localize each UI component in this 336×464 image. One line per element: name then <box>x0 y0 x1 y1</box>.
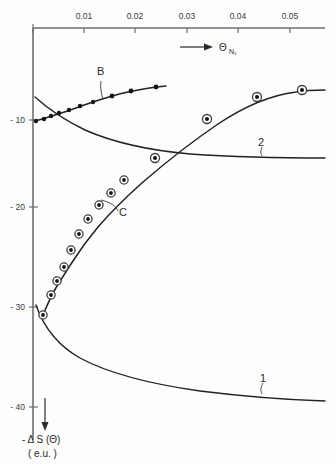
data-point <box>49 114 53 118</box>
data-point <box>84 215 92 223</box>
data-point <box>91 100 95 104</box>
y-axis-title-group: - Δ S (Θ) ( e.u. ) <box>22 398 60 459</box>
x-tick-label: 0.01 <box>76 11 93 21</box>
curve-b-path <box>35 86 166 121</box>
y-tick-label: - 40 <box>10 402 25 412</box>
data-point <box>95 201 103 209</box>
data-point <box>298 86 307 95</box>
data-point <box>78 104 82 108</box>
x-tick-label: 0.03 <box>179 11 196 21</box>
data-point <box>107 189 115 197</box>
data-point <box>67 246 75 254</box>
plot-canvas: 0.01 0.02 0.03 0.04 0.05 - 10 - 20 - 30 … <box>0 0 336 464</box>
x-tick-label: 0.05 <box>282 11 299 21</box>
curve-b-label: B <box>97 65 104 77</box>
y-tick-label: - 10 <box>10 115 25 125</box>
y-axis-title-line1: - Δ S (Θ) <box>22 434 60 445</box>
data-point <box>110 94 115 99</box>
data-point <box>120 176 128 184</box>
data-point <box>203 115 212 124</box>
curve-2-label: 2 <box>258 136 264 148</box>
curve-2-label-group: 2 <box>258 136 264 156</box>
curve-1-label: 1 <box>260 372 266 384</box>
data-point <box>53 277 61 285</box>
x-axis-title-subscript: N₂ <box>229 48 237 55</box>
data-point <box>253 93 262 102</box>
x-axis-title: Θ <box>219 42 227 53</box>
curve-b-leader <box>101 81 103 99</box>
data-point <box>47 291 55 299</box>
x-tick-label: 0.04 <box>230 11 247 21</box>
curve-c-label: C <box>119 206 127 218</box>
curve-c-path <box>43 90 325 315</box>
curve-1-label-group: 1 <box>260 372 266 394</box>
data-point <box>67 108 71 112</box>
data-point <box>75 230 83 238</box>
data-point <box>57 111 61 115</box>
data-point <box>60 263 68 271</box>
y-tick-labels: - 10 - 20 - 30 - 40 <box>10 115 25 412</box>
curve-1-leader <box>261 383 263 394</box>
y-axis-title-line2: ( e.u. ) <box>28 448 57 459</box>
data-point <box>129 89 134 94</box>
curve-2-leader <box>261 147 262 156</box>
x-axis-arrow-head <box>204 44 213 51</box>
data-point <box>154 85 159 90</box>
data-point <box>151 154 160 163</box>
chart-figure: 0.01 0.02 0.03 0.04 0.05 - 10 - 20 - 30 … <box>0 0 336 464</box>
y-tick-label: - 30 <box>10 302 25 312</box>
data-point <box>39 311 47 319</box>
axis-group <box>29 24 325 440</box>
data-point <box>42 117 46 121</box>
curve-b-label-group: B <box>97 65 104 99</box>
curve-1-path <box>36 305 325 401</box>
x-tick-label: 0.02 <box>127 11 144 21</box>
y-axis-arrow-head <box>42 422 49 431</box>
data-point <box>34 119 38 123</box>
x-axis-title-group: Θ N₂ <box>180 42 237 55</box>
curve-c-markers <box>39 86 307 320</box>
y-tick-label: - 20 <box>10 202 25 212</box>
x-tick-labels: 0.01 0.02 0.03 0.04 0.05 <box>76 11 299 21</box>
